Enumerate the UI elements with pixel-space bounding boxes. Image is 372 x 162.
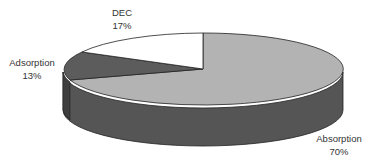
- label-adsorption-pct: 13%: [4, 69, 60, 82]
- label-dec: DEC 17%: [104, 6, 140, 32]
- label-absorption-pct: 70%: [310, 145, 368, 158]
- label-absorption-name: Absorption: [310, 132, 368, 145]
- pie-chart-3d: DEC 17% Adsorption 13% Absorption 70%: [0, 0, 372, 162]
- label-dec-name: DEC: [104, 6, 140, 19]
- label-adsorption: Adsorption 13%: [4, 56, 60, 82]
- label-absorption: Absorption 70%: [310, 132, 368, 158]
- label-dec-pct: 17%: [104, 19, 140, 32]
- label-adsorption-name: Adsorption: [4, 56, 60, 69]
